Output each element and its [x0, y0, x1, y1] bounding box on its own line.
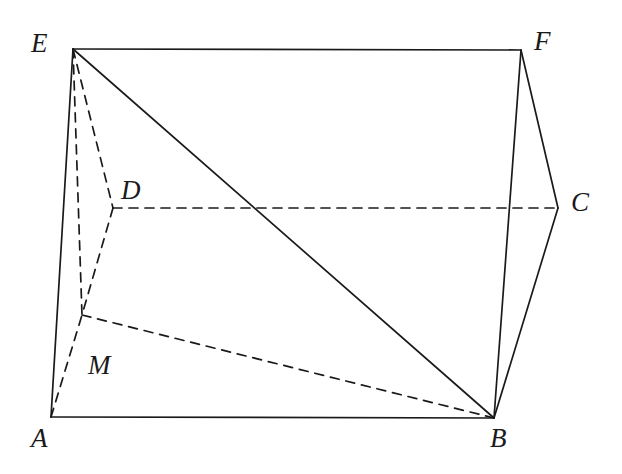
vertex-label-c: C	[571, 189, 589, 216]
vertex-label-m: M	[88, 352, 111, 379]
edge-AB	[51, 417, 494, 418]
vertex-label-b: B	[490, 425, 507, 452]
edge-MB	[82, 315, 494, 418]
edge-EA	[51, 49, 73, 417]
edge-DM	[82, 208, 113, 315]
vertex-label-a: A	[31, 425, 48, 452]
edge-EF	[73, 49, 521, 50]
vertex-label-f: F	[534, 28, 551, 55]
edge-EM	[73, 49, 82, 315]
edge-EB	[73, 49, 494, 418]
edge-FC	[521, 50, 558, 208]
vertex-label-e: E	[31, 30, 48, 57]
edge-CB	[494, 208, 558, 418]
vertex-label-d: D	[121, 177, 141, 204]
dashed-edge-group	[51, 49, 558, 418]
edge-FB	[494, 50, 521, 418]
figure-canvas	[0, 0, 622, 474]
geometry-diagram: EFDCABM	[0, 0, 622, 474]
edge-ED	[73, 49, 113, 208]
solid-edge-group	[51, 49, 558, 418]
